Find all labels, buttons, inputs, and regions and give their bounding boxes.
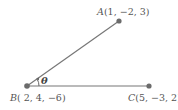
point-a	[116, 18, 121, 23]
point-b	[24, 83, 30, 89]
point-c-label: C(5, −3, 2)	[128, 92, 178, 103]
angle-theta-label: θ	[41, 75, 48, 86]
point-a-label: A(1, −2, 3)	[96, 6, 149, 17]
point-b-label: B( 2, 4, −6)	[9, 92, 66, 103]
point-c	[146, 83, 151, 88]
vector-angle-diagram: A(1, −2, 3) B( 2, 4, −6) C(5, −3, 2) θ	[0, 0, 178, 110]
